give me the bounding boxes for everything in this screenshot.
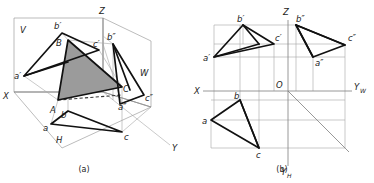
label-point-b-lower-b: b	[234, 91, 239, 101]
label-point-B: B	[56, 38, 62, 48]
triangle-w-projection-b	[296, 25, 345, 57]
label-point-c-lower-a: c	[124, 132, 129, 142]
label-point-c-dblprime-a: c″	[145, 93, 154, 103]
label-point-a-lower-b: a	[202, 116, 207, 126]
label-point-C: C	[123, 84, 129, 94]
label-point-b-prime-b: b′	[237, 14, 244, 24]
panel-b-drawing: Z X Y W Y H O a′ b′ c′ a″ b″ c″ a b c (b…	[187, 0, 374, 183]
label-plane-w: W	[140, 68, 149, 78]
caption-panel-a: (a)	[78, 165, 89, 174]
figure-container: V W H Z X Y A B C a′ b′ c′ a″ b″ c″ a b …	[0, 0, 374, 183]
triangle-h-projection-b	[211, 100, 259, 148]
caption-panel-b: (b)	[276, 165, 287, 174]
edge-bprime-inner-b	[243, 25, 259, 44]
label-point-a-lower-a: a	[43, 123, 48, 133]
label-point-a-prime-b: a′	[203, 53, 210, 63]
label-axis-z-b: Z	[282, 7, 289, 17]
label-point-c-prime-a: c′	[93, 39, 100, 49]
label-point-a-dblprime-b: a″	[315, 58, 324, 68]
label-point-b-dblprime-a: b″	[107, 32, 116, 42]
label-point-a-dblprime-a: a″	[118, 102, 127, 112]
edge-bdbl-adbl-b	[296, 25, 313, 57]
label-axis-yw-subscript: W	[360, 87, 367, 94]
label-point-c-lower-b: c	[256, 150, 261, 160]
panel-a-drawing: V W H Z X Y A B C a′ b′ c′ a″ b″ c″ a b …	[0, 0, 187, 183]
label-point-b-dblprime-b: b″	[296, 14, 305, 24]
label-axis-yh-subscript: H	[287, 172, 292, 179]
label-axis-y-a: Y	[172, 143, 178, 153]
label-axis-x-a: X	[2, 91, 9, 101]
label-point-a-prime-a: a′	[14, 71, 21, 81]
label-point-c-prime-b: c′	[275, 33, 282, 43]
triangle-ABC-shaded	[58, 40, 122, 100]
label-plane-v: V	[20, 25, 27, 35]
label-plane-h: H	[56, 135, 63, 145]
triangle-v-projection-b	[214, 25, 274, 57]
label-axis-z-a: Z	[98, 6, 105, 16]
label-point-b-lower-a: b	[61, 110, 66, 120]
label-point-b-prime-a: b′	[54, 21, 61, 31]
label-axis-x-b: X	[193, 86, 200, 96]
label-origin-o: O	[276, 80, 283, 90]
label-point-A: A	[49, 105, 56, 115]
label-point-c-dblprime-b: c″	[348, 33, 357, 43]
projector-a-prime	[24, 76, 58, 100]
edge-b-c-lower-b	[240, 100, 259, 148]
edge-bdbl-cdbl-b	[296, 25, 345, 45]
